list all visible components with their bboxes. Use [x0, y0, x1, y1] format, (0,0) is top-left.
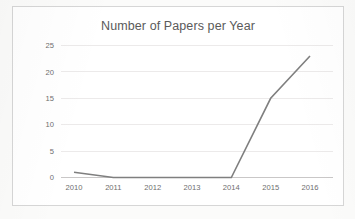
y-axis-tick-labels: 25 20 15 10 5 0 [46, 41, 54, 182]
x-axis-tick-labels: 2010 2011 2012 2013 2014 2015 2016 [66, 183, 319, 192]
chart-figure: Number of Papers per Year 25 20 15 10 5 … [12, 6, 344, 206]
line-chart-plot: 25 20 15 10 5 0 2010 2011 2012 2013 2014… [13, 7, 345, 207]
y-tick-label-0: 0 [50, 173, 54, 182]
y-tick-label-20: 20 [46, 68, 54, 77]
x-tick-label-2016: 2016 [302, 183, 319, 192]
y-tick-label-5: 5 [50, 147, 54, 156]
y-tick-label-10: 10 [46, 120, 54, 129]
y-tick-label-15: 15 [46, 94, 54, 103]
x-tick-label-2014: 2014 [223, 183, 240, 192]
plot-area-background [61, 45, 333, 177]
x-tick-label-2011: 2011 [105, 183, 121, 192]
x-tick-label-2010: 2010 [66, 183, 83, 192]
x-tick-label-2012: 2012 [144, 183, 161, 192]
x-tick-label-2013: 2013 [184, 183, 201, 192]
y-tick-label-25: 25 [46, 41, 54, 50]
x-tick-label-2015: 2015 [262, 183, 279, 192]
